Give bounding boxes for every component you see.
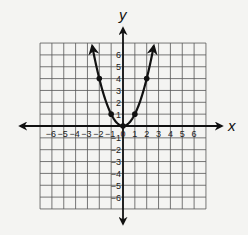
- x-tick-label: −5: [58, 129, 68, 139]
- data-point: [120, 123, 126, 129]
- x-tick-label: 4: [168, 129, 173, 139]
- data-point: [144, 76, 150, 82]
- y-tick-label: −2: [111, 145, 121, 155]
- x-tick-label: 0: [120, 129, 125, 139]
- x-axis-label: x: [227, 117, 236, 134]
- data-point: [132, 111, 138, 117]
- data-point: [108, 111, 114, 117]
- coordinate-plane: −6−5−4−3−2−10123456−6−5−4−3−2−1123456 x …: [0, 0, 248, 235]
- y-tick-label: 2: [116, 98, 121, 108]
- x-tick-label: 2: [144, 129, 149, 139]
- x-tick-label: 3: [156, 129, 161, 139]
- y-tick-label: −1: [111, 133, 121, 143]
- y-tick-label: 5: [116, 62, 121, 72]
- y-tick-label: 1: [116, 110, 121, 120]
- y-tick-label: −5: [111, 181, 121, 191]
- x-tick-label: 1: [132, 129, 137, 139]
- y-tick-label: 6: [116, 50, 121, 60]
- data-point: [97, 76, 103, 82]
- x-tick-label: −3: [81, 129, 91, 139]
- x-tick-label: −2: [93, 129, 103, 139]
- y-tick-label: 4: [116, 74, 121, 84]
- y-tick-label: −3: [111, 157, 121, 167]
- y-tick-label: 3: [116, 86, 121, 96]
- y-axis-label: y: [118, 6, 128, 23]
- x-tick-label: −4: [69, 129, 79, 139]
- y-tick-label: −6: [111, 193, 121, 203]
- x-tick-label: 5: [180, 129, 185, 139]
- x-tick-label: −6: [46, 129, 56, 139]
- y-tick-label: −4: [111, 169, 121, 179]
- x-tick-label: 6: [192, 129, 197, 139]
